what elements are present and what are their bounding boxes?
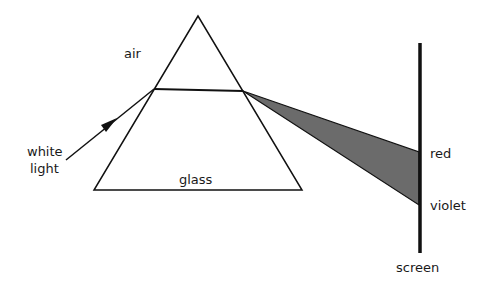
label-violet: violet <box>430 198 466 213</box>
refracted-ray <box>154 89 243 91</box>
dispersed-spectrum <box>243 91 419 205</box>
label-screen: screen <box>396 260 439 275</box>
label-white-light-line2: light <box>30 161 59 176</box>
label-air: air <box>124 46 142 61</box>
label-white-light-line1: white <box>27 144 63 159</box>
label-glass: glass <box>179 172 213 187</box>
prism-dispersion-diagram: air glass white light red violet screen <box>0 0 488 286</box>
label-red: red <box>430 146 451 161</box>
